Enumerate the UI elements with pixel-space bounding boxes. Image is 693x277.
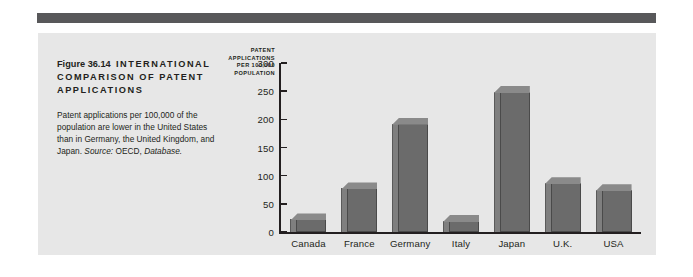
bar-top-face (290, 213, 326, 220)
bar-japan (494, 63, 530, 232)
bar-body (596, 184, 632, 232)
bar-front-face (347, 188, 377, 232)
top-divider-rule (37, 13, 656, 23)
bar-body (290, 213, 326, 232)
bar-front-face (398, 124, 428, 232)
y-axis-tick-label: 150 (222, 142, 274, 153)
bar-front-face (602, 190, 632, 232)
y-axis-tick-label: 200 (222, 114, 274, 125)
bar-italy (443, 63, 479, 232)
bar-body (443, 215, 479, 232)
x-axis-label-usa: USA (603, 238, 623, 249)
x-axis-label-italy: Italy (452, 238, 470, 249)
bar-top-face (494, 86, 530, 93)
y-axis-tick-label: 50 (222, 198, 274, 209)
x-axis-label-canada: Canada (291, 238, 326, 249)
bar-u-k (545, 63, 581, 232)
bar-canada (290, 63, 326, 232)
x-axis-label-japan: Japan (498, 238, 525, 249)
y-axis-tick-label: 100 (222, 170, 274, 181)
bar-top-face (545, 177, 581, 184)
bar-series (283, 63, 639, 232)
bar-top-face (341, 182, 377, 189)
bar-usa (596, 63, 632, 232)
x-axis-label-germany: Germany (390, 238, 431, 249)
y-axis-title-line: POPULATION (155, 70, 275, 78)
bar-france (341, 63, 377, 232)
figure-number: Figure 36.14 (57, 59, 111, 69)
bar-body (494, 86, 530, 232)
bar-front-face (551, 183, 581, 232)
bar-body (545, 177, 581, 232)
figure-source-label: Source: (84, 146, 113, 156)
bar-front-face (500, 92, 530, 232)
x-axis-line (279, 232, 641, 234)
bar-top-face (596, 184, 632, 191)
bar-body (392, 118, 428, 232)
bar-front-face (449, 221, 479, 232)
bar-germany (392, 63, 428, 232)
bar-top-face (392, 118, 428, 125)
y-axis-tick-label: 300 (222, 58, 274, 69)
figure-source-name: OECD, (115, 146, 141, 156)
bar-front-face (296, 219, 326, 232)
figure-description: Patent applications per 100,000 of the p… (57, 109, 215, 158)
y-axis-tick-label: 250 (222, 86, 274, 97)
x-axis-label-france: France (344, 238, 375, 249)
y-axis-tick-label: 0 (222, 227, 274, 238)
figure-container: Figure 36.14 INTERNATIONAL COMPARISON OF… (0, 0, 693, 277)
x-axis-label-u-k: U.K. (553, 238, 572, 249)
y-axis-title-line: PATENT (155, 47, 275, 55)
figure-source-publication: Database. (144, 146, 182, 156)
bar-body (341, 182, 377, 232)
bar-chart: PATENTAPPLICATIONSPER 100,000POPULATION … (222, 45, 642, 255)
bar-top-face (443, 215, 479, 222)
